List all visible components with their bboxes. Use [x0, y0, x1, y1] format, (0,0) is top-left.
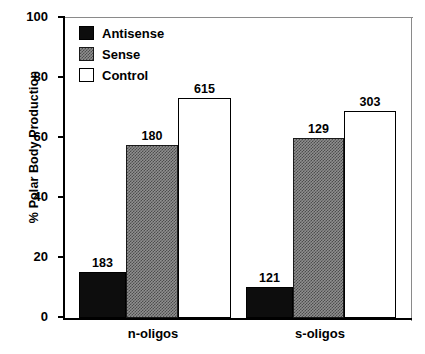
y-axis-title: % Polar Body Production — [27, 27, 41, 267]
bar-soligos-control[interactable]: 303 — [344, 111, 396, 318]
bar-soligos-antisense[interactable]: 121 — [246, 287, 293, 319]
y-tick-label-0: 0 — [41, 309, 48, 324]
y-tick-label-40: 40 — [34, 189, 48, 204]
bar-value-noligos-antisense: 183 — [92, 256, 113, 270]
bar-value-soligos-sense: 129 — [308, 122, 329, 136]
y-tick-label-60: 60 — [34, 129, 48, 144]
legend-swatch-sense-icon — [79, 47, 94, 61]
legend-label-antisense: Antisense — [102, 26, 164, 41]
bar-noligos-sense[interactable]: 180 — [126, 145, 178, 318]
legend-label-control: Control — [102, 68, 148, 83]
y-tick-40: 40 — [58, 196, 65, 198]
x-category-label-noligos: n-oligos — [128, 326, 179, 341]
bar-value-soligos-antisense: 121 — [259, 271, 280, 285]
bar-noligos-control[interactable]: 615 — [178, 98, 231, 319]
bar-chart-figure: % Polar Body Production 0 20 40 60 80 10… — [0, 0, 425, 354]
bar-value-noligos-control: 615 — [194, 82, 215, 96]
y-tick-label-100: 100 — [26, 9, 48, 24]
legend-swatch-control-icon — [79, 68, 94, 82]
y-tick-20: 20 — [58, 256, 65, 258]
bar-noligos-antisense[interactable]: 183 — [79, 272, 126, 319]
chart-legend: Antisense Sense Control — [79, 25, 164, 88]
bar-value-soligos-control: 303 — [360, 95, 381, 109]
legend-swatch-antisense-icon — [79, 26, 94, 40]
legend-item-control[interactable]: Control — [79, 67, 164, 83]
legend-label-sense: Sense — [102, 47, 140, 62]
bar-soligos-sense[interactable]: 129 — [293, 138, 344, 318]
y-tick-60: 60 — [58, 136, 65, 138]
legend-item-antisense[interactable]: Antisense — [79, 25, 164, 41]
y-tick-label-20: 20 — [34, 249, 48, 264]
bar-value-noligos-sense: 180 — [142, 129, 163, 143]
y-tick-80: 80 — [58, 76, 65, 78]
y-tick-label-80: 80 — [34, 69, 48, 84]
y-tick-100: 100 — [58, 16, 65, 18]
y-tick-0: 0 — [58, 316, 65, 318]
legend-item-sense[interactable]: Sense — [79, 46, 164, 62]
x-category-label-soligos: s-oligos — [295, 326, 345, 341]
